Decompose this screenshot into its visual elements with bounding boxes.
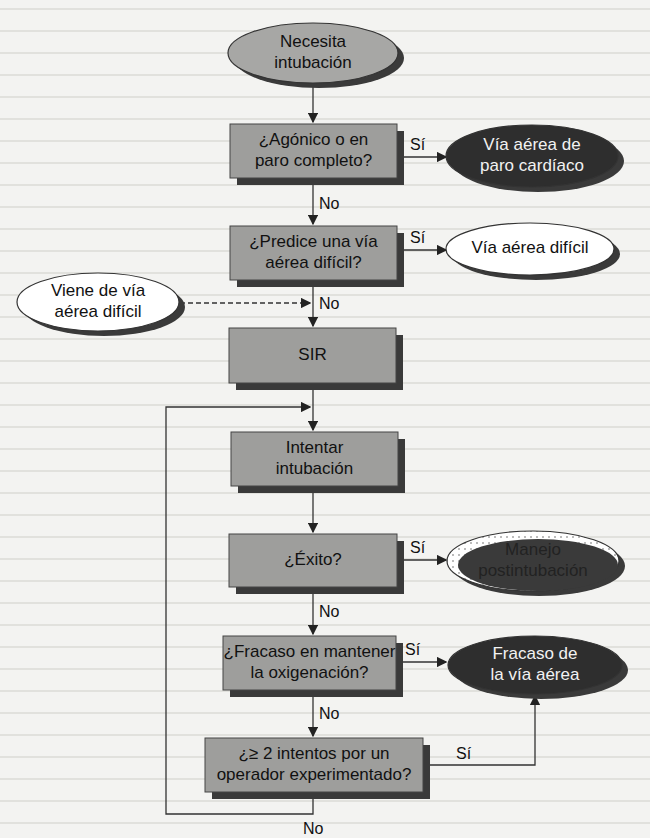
node-label-line: paro completo?: [255, 151, 372, 170]
label-success-yes: Sí: [410, 539, 426, 556]
airway-flowchart: Sí No Sí No Sí No Sí No Sí No Necesitain…: [0, 0, 650, 838]
node-label-line: ¿Fracaso en mantener: [224, 642, 396, 661]
node-difficult: Vía aérea difícil: [446, 223, 620, 280]
node-label-line: Viene de vía: [51, 281, 146, 300]
node-label-line: la oxigenación?: [250, 663, 368, 682]
label-predict-yes: Sí: [410, 229, 426, 246]
node-q-oxygen: ¿Fracaso en mantenerla oxigenación?: [223, 636, 403, 697]
node-label-line: ¿≥ 2 intentos por un: [238, 744, 389, 763]
node-label-line: intubación: [274, 53, 352, 72]
node-label-line: Fracaso de: [492, 644, 577, 663]
node-label-line: operador experimentado?: [217, 765, 412, 784]
node-label-line: ¿Agónico o en: [259, 130, 369, 149]
node-crash: Vía aérea deparo cardíaco: [446, 125, 624, 192]
node-q-attempts: ¿≥ 2 intentos por unoperador experimenta…: [205, 738, 430, 799]
edge-attempts-yes: [430, 696, 535, 765]
node-rsi: SIR: [229, 328, 403, 390]
label-attempts-no: No: [303, 820, 324, 837]
label-success-no: No: [319, 603, 340, 620]
node-failed: Fracaso dela vía aérea: [448, 636, 628, 699]
node-label-line: ¿Predice una vía: [249, 232, 378, 251]
node-attempt: Intentarintubación: [231, 432, 405, 493]
node-label-line: paro cardíaco: [480, 156, 584, 175]
label-predict-no: No: [319, 295, 340, 312]
label-attempts-yes: Sí: [456, 745, 472, 762]
node-label-line: Necesita: [280, 32, 347, 51]
node-start: Necesitaintubación: [228, 23, 404, 88]
node-label-line: ¿Éxito?: [284, 550, 342, 569]
node-label-line: SIR: [298, 345, 326, 364]
node-q-predict: ¿Predice una víaaérea difícil?: [230, 226, 404, 287]
node-label-line: Vía aérea difícil: [471, 238, 588, 257]
label-agonal-no: No: [319, 195, 340, 212]
node-label-line: Intentar: [286, 438, 344, 457]
nodes: Necesitaintubación¿Agónico o enparo comp…: [17, 23, 628, 799]
label-agonal-yes: Sí: [410, 136, 426, 153]
node-label-line: la vía aérea: [491, 665, 580, 684]
node-q-agonal: ¿Agónico o enparo completo?: [230, 124, 404, 185]
label-oxygen-yes: Sí: [405, 641, 421, 658]
node-label-line: aérea difícil?: [265, 253, 361, 272]
node-label-line: Vía aérea de: [483, 135, 580, 154]
node-from-difficult: Viene de víaaérea difícil: [17, 273, 185, 336]
node-label-line: Manejo: [505, 540, 561, 559]
node-label-line: aérea difícil: [55, 302, 142, 321]
label-oxygen-no: No: [319, 705, 340, 722]
node-post: Manejopostintubación: [447, 531, 625, 596]
node-label-line: postintubación: [478, 561, 588, 580]
node-q-success: ¿Éxito?: [229, 534, 404, 594]
node-label-line: intubación: [276, 459, 354, 478]
